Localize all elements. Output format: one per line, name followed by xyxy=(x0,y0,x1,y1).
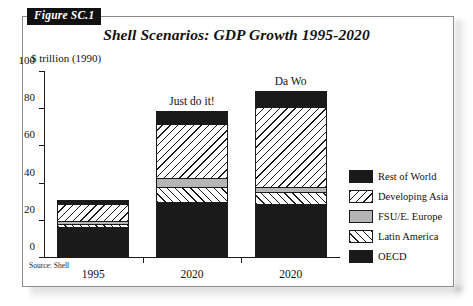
y-axis-label: $ trillion (1990) xyxy=(31,52,101,64)
figure-number-tab: Figure SC.1 xyxy=(27,8,101,25)
x-axis-tick xyxy=(241,257,242,263)
chart-legend: Rest of WorldDeveloping AsiaFSU/E. Europ… xyxy=(349,166,453,266)
bar-segment-fsu-e-europe xyxy=(57,221,129,224)
y-axis-tick xyxy=(39,145,45,146)
source-note: Source: Shell xyxy=(29,261,69,270)
y-axis-tick xyxy=(39,257,45,258)
legend-item: OECD xyxy=(349,246,453,266)
legend-item: Developing Asia xyxy=(349,186,453,206)
legend-item: FSU/E. Europe xyxy=(349,206,453,226)
legend-swatch-oecd xyxy=(349,250,373,263)
legend-swatch-fsu-e-europe xyxy=(349,210,373,223)
plot-area: 020406080100 199520202020 Just do it!Da … xyxy=(44,72,340,258)
bar-segment-latin-america xyxy=(57,224,129,228)
legend-swatch-developing-asia xyxy=(349,190,373,203)
legend-label: Latin America xyxy=(378,231,438,242)
bar-segment-rest-of-world xyxy=(255,91,327,108)
bar-annotation: Da Wo xyxy=(221,75,361,87)
legend-label: FSU/E. Europe xyxy=(378,211,442,222)
stacked-bar xyxy=(255,91,327,258)
stacked-bar xyxy=(156,111,228,258)
bar-segment-fsu-e-europe xyxy=(156,178,228,187)
bar-segment-developing-asia xyxy=(255,107,327,187)
y-axis-tick-label: 60 xyxy=(0,128,35,140)
bar-segment-fsu-e-europe xyxy=(255,187,327,192)
x-axis-tick xyxy=(143,257,144,263)
y-axis-tick xyxy=(39,108,45,109)
y-axis-tick-label: 20 xyxy=(0,203,35,215)
x-axis-tick-label: 2020 xyxy=(246,268,336,280)
chart-title: Shell Scenarios: GDP Growth 1995-2020 xyxy=(0,26,473,44)
y-axis-tick xyxy=(39,220,45,221)
y-axis-tick-label: 100 xyxy=(0,54,35,66)
bar-annotation: Just do it! xyxy=(122,95,262,107)
legend-item: Rest of World xyxy=(349,166,453,186)
bar-segment-oecd xyxy=(255,204,327,258)
bar-segment-developing-asia xyxy=(156,124,228,178)
legend-swatch-rest-of-world xyxy=(349,170,373,183)
bar-segment-oecd xyxy=(57,227,129,258)
bar-segment-latin-america xyxy=(255,192,327,204)
y-axis-tick xyxy=(39,71,45,72)
y-axis-tick-label: 80 xyxy=(0,91,35,103)
legend-label: OECD xyxy=(378,251,407,262)
legend-label: Rest of World xyxy=(378,171,436,182)
stacked-bar xyxy=(57,200,129,258)
legend-label: Developing Asia xyxy=(378,191,448,202)
x-axis-tick-label: 2020 xyxy=(147,268,237,280)
page-shadow-bottom xyxy=(30,286,462,299)
y-axis-line xyxy=(44,72,45,258)
page-shadow-right xyxy=(455,20,467,292)
legend-swatch-latin-america xyxy=(349,230,373,243)
y-axis-tick-label: 40 xyxy=(0,166,35,178)
y-axis-tick-label: 0 xyxy=(0,240,35,252)
bar-segment-rest-of-world xyxy=(156,111,228,124)
figure-container: Figure SC.1 Shell Scenarios: GDP Growth … xyxy=(0,0,473,306)
bar-segment-oecd xyxy=(156,202,228,258)
y-axis-tick xyxy=(39,183,45,184)
bar-segment-rest-of-world xyxy=(57,200,129,204)
bar-segment-latin-america xyxy=(156,187,228,202)
legend-item: Latin America xyxy=(349,226,453,246)
bar-segment-developing-asia xyxy=(57,204,129,221)
